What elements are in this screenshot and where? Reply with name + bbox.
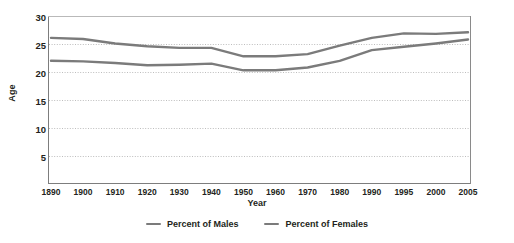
- x-tick-label: 1950: [234, 187, 253, 197]
- legend-item-females[interactable]: Percent of Females: [264, 219, 368, 229]
- x-axis-title: Year: [0, 198, 514, 208]
- legend-label: Percent of Males: [167, 219, 239, 229]
- x-tick-label: 1910: [106, 187, 125, 197]
- series-lines: [51, 32, 468, 70]
- y-tick-label: 20: [2, 69, 46, 79]
- y-tick-label: 5: [2, 153, 46, 163]
- legend-item-males[interactable]: Percent of Males: [146, 219, 239, 229]
- y-tick-label: 25: [2, 41, 46, 51]
- plot-svg: [48, 16, 471, 184]
- y-tick-label: 15: [2, 97, 46, 107]
- x-tick-label: 2000: [426, 187, 445, 197]
- legend-swatch-icon: [264, 223, 279, 226]
- chart-legend: Percent of Males Percent of Females: [0, 219, 514, 229]
- x-tick-label: 2005: [459, 187, 478, 197]
- y-tick-label: 30: [2, 13, 46, 23]
- gridlines: [49, 17, 470, 157]
- x-tick-label: 1980: [330, 187, 349, 197]
- x-tick-label: 1930: [170, 187, 189, 197]
- legend-label: Percent of Females: [285, 219, 368, 229]
- x-tick-label: 1940: [202, 187, 221, 197]
- x-tick-label: 1900: [74, 187, 93, 197]
- legend-swatch-icon: [146, 223, 161, 226]
- plot-area: [48, 16, 471, 184]
- x-tick-label: 1960: [266, 187, 285, 197]
- x-tick-label: 1920: [138, 187, 157, 197]
- median-age-at-first-marriage-chart: Age 30 25 20 15 10 5 1890190019101920193…: [0, 0, 514, 243]
- x-tick-label: 1990: [362, 187, 381, 197]
- x-tick-label: 1890: [42, 187, 61, 197]
- x-tick-label: 1970: [298, 187, 317, 197]
- y-tick-label: 10: [2, 125, 46, 135]
- x-tick-label: 1995: [394, 187, 413, 197]
